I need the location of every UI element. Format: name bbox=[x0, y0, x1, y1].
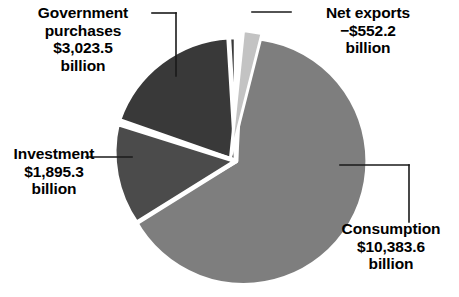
slice-label-government-purchases-unit: billion bbox=[14, 57, 152, 75]
slice-label-consumption-unit: billion bbox=[325, 255, 457, 273]
slice-label-investment: Investment $1,895.3 billion bbox=[2, 145, 106, 198]
slice-label-government-purchases: Government purchases $3,023.5 billion bbox=[14, 4, 152, 74]
slice-label-consumption: Consumption $10,383.6 billion bbox=[325, 220, 457, 273]
slice-label-net-exports: Net exports −$552.2 billion bbox=[293, 4, 443, 57]
slice-label-consumption-value: $10,383.6 bbox=[325, 238, 457, 256]
slice-label-government-purchases-value: $3,023.5 bbox=[14, 39, 152, 57]
pie-chart: Government purchases $3,023.5 billion Ne… bbox=[0, 0, 459, 297]
slice-label-net-exports-line1: Net exports bbox=[293, 4, 443, 22]
slice-label-investment-line1: Investment bbox=[2, 145, 106, 163]
slice-label-government-purchases-line1: Government bbox=[14, 4, 152, 22]
slice-label-net-exports-unit: billion bbox=[293, 39, 443, 57]
slice-label-consumption-line1: Consumption bbox=[325, 220, 457, 238]
slice-label-net-exports-value: −$552.2 bbox=[293, 22, 443, 40]
slice-label-investment-value: $1,895.3 bbox=[2, 163, 106, 181]
slice-label-government-purchases-line2: purchases bbox=[14, 22, 152, 40]
slice-label-investment-unit: billion bbox=[2, 180, 106, 198]
